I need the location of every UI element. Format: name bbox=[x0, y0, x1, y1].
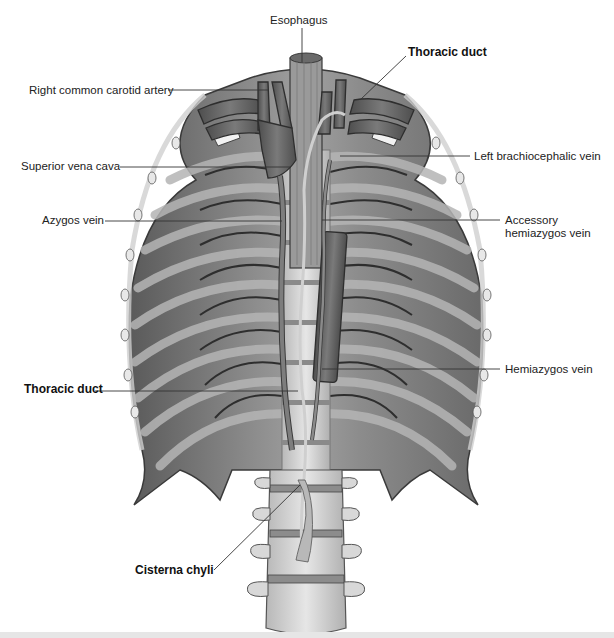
label-left-brachiocephalic-vein: Left brachiocephalic vein bbox=[474, 150, 601, 163]
label-accessory-hemiazygos-vein-line2: hemiazygos vein bbox=[505, 227, 591, 240]
label-right-common-carotid-artery: Right common carotid artery bbox=[29, 84, 173, 97]
label-esophagus: Esophagus bbox=[270, 14, 328, 27]
label-thoracic-duct-top: Thoracic duct bbox=[408, 46, 487, 59]
label-superior-vena-cava: Superior vena cava bbox=[21, 160, 120, 173]
bottom-bar bbox=[0, 632, 614, 638]
label-azygos-vein: Azygos vein bbox=[42, 214, 104, 227]
label-cisterna-chyli: Cisterna chyli bbox=[135, 564, 214, 577]
label-hemiazygos-vein: Hemiazygos vein bbox=[505, 363, 593, 376]
label-accessory-hemiazygos-vein-line1: Accessory bbox=[505, 214, 558, 227]
label-thoracic-duct-left: Thoracic duct bbox=[24, 383, 103, 396]
